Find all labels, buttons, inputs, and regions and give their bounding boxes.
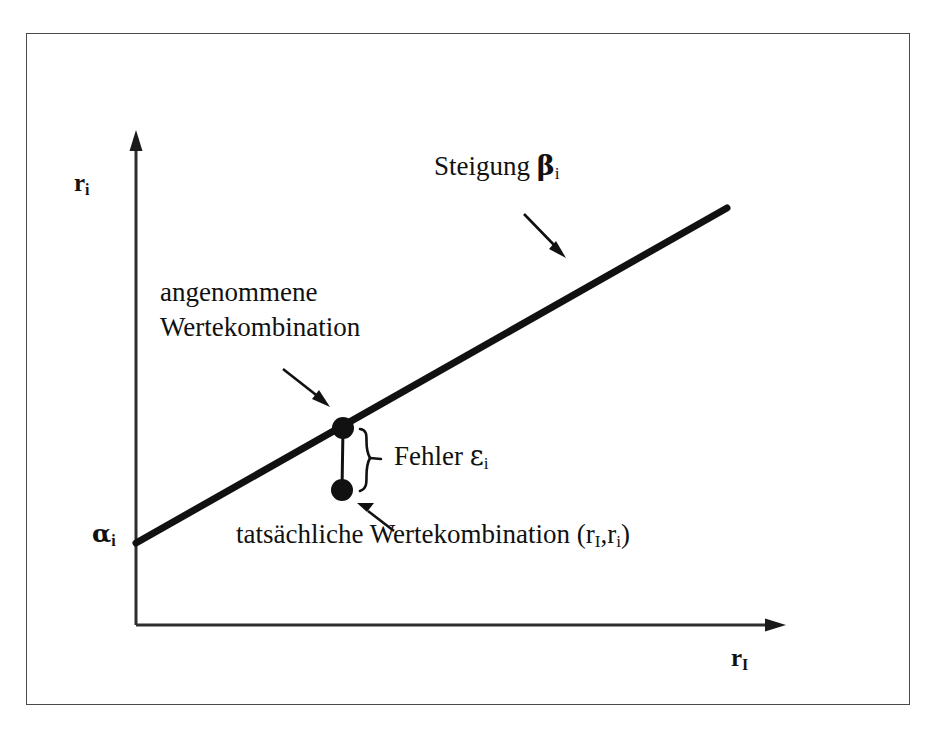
intercept-greek: α	[92, 519, 111, 548]
figure-frame	[26, 33, 910, 705]
x-axis-label-base: r	[731, 644, 742, 671]
actual-combination-text: tatsächliche Wertekombination (r	[236, 519, 595, 549]
intercept-label: αi	[92, 519, 116, 549]
intercept-sub: i	[111, 532, 115, 549]
slope-label-sub: i	[555, 164, 560, 183]
slope-label-prefix: Steigung	[434, 151, 537, 181]
error-label-sub: i	[484, 454, 489, 473]
actual-combination-suffix: )	[621, 519, 630, 549]
error-label-prefix: Fehler	[394, 441, 470, 471]
actual-combination-mid: ,r	[600, 519, 616, 549]
y-axis-label-base: r	[74, 169, 85, 196]
y-axis-label-sub: i	[85, 181, 89, 198]
x-axis-label-sub: I	[742, 656, 748, 673]
assumed-combination-label: angenommene Wertekombination	[160, 275, 360, 344]
assumed-combination-line2: Wertekombination	[160, 310, 360, 345]
slope-label-greek: β	[537, 150, 555, 181]
assumed-combination-line1: angenommene	[160, 275, 360, 310]
slope-label: Steigung βi	[434, 150, 560, 183]
y-axis-label: ri	[74, 168, 90, 198]
error-label-greek: ε	[470, 440, 484, 471]
error-label: Fehler εi	[394, 440, 489, 473]
x-axis-label: rI	[731, 643, 748, 673]
actual-combination-label: tatsächliche Wertekombination (rI,ri)	[236, 519, 630, 551]
